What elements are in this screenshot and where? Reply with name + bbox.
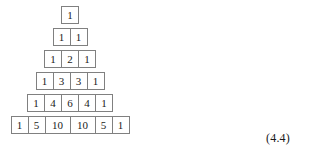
triangle-cell: 1 [78,50,96,68]
triangle-cell: 10 [45,116,71,134]
triangle-cell: 5 [28,116,46,134]
triangle-row: 1 5 10 10 5 1 [11,116,130,134]
triangle-cell: 10 [70,116,96,134]
triangle-row: 1 3 3 1 [36,72,105,90]
triangle-cell: 4 [44,94,62,112]
triangle-cell: 4 [78,94,96,112]
triangle-cell: 3 [53,72,71,90]
triangle-row: 1 [61,6,79,24]
triangle-cell: 1 [44,50,62,68]
triangle-cell: 2 [61,50,79,68]
equation-number: (4.4) [266,132,290,144]
triangle-row: 1 2 1 [44,50,96,68]
triangle-row: 1 1 [53,28,88,46]
triangle-row: 1 4 6 4 1 [27,94,113,112]
triangle-cell: 1 [95,94,113,112]
triangle-cell: 1 [87,72,105,90]
triangle-cell: 6 [61,94,79,112]
triangle-cell: 3 [70,72,88,90]
triangle-cell: 1 [53,28,71,46]
triangle-cell: 5 [95,116,113,134]
triangle-cell: 1 [11,116,29,134]
triangle-cell: 1 [61,6,79,24]
triangle-cell: 1 [27,94,45,112]
pascals-triangle: 1 1 1 1 2 1 1 3 3 1 1 4 6 4 1 1 5 10 [0,6,140,138]
figure-container: 1 1 1 1 2 1 1 3 3 1 1 4 6 4 1 1 5 10 [0,0,314,162]
triangle-cell: 1 [112,116,130,134]
triangle-cell: 1 [70,28,88,46]
triangle-cell: 1 [36,72,54,90]
